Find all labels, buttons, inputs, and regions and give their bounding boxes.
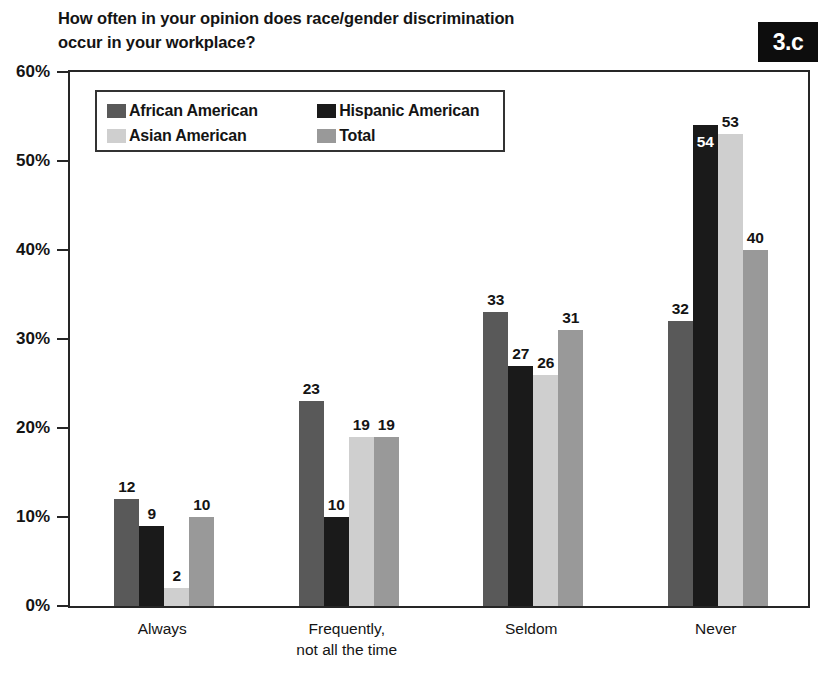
y-axis-tick-mark	[57, 338, 68, 340]
bar-group: 23101919	[255, 72, 440, 606]
bar-value-label: 19	[366, 416, 406, 434]
bar[interactable]	[164, 588, 189, 606]
y-axis-tick-label: 0%	[25, 596, 50, 616]
legend-swatch-icon	[317, 104, 336, 118]
bar[interactable]	[743, 250, 768, 606]
y-axis: 0%10%20%30%40%50%60%	[0, 0, 68, 684]
legend-item-total: Total	[317, 127, 503, 145]
bar-value-label: 40	[735, 229, 775, 247]
y-axis-tick-mark	[57, 605, 68, 607]
legend-item-asian-american: Asian American	[107, 127, 317, 145]
legend-swatch-icon	[107, 104, 126, 118]
x-axis-tick-label: Always	[62, 618, 262, 639]
bar[interactable]	[718, 134, 743, 606]
bar[interactable]	[189, 517, 214, 606]
chart-legend: African American Hispanic American Asian…	[95, 90, 505, 152]
legend-label: Total	[339, 127, 375, 145]
y-axis-tick-label: 10%	[16, 507, 50, 527]
legend-row: Asian American Total	[107, 123, 503, 148]
legend-row: African American Hispanic American	[107, 98, 503, 123]
legend-item-african-american: African American	[107, 102, 317, 120]
legend-label: African American	[129, 102, 258, 120]
bar-group: 129210	[70, 72, 255, 606]
y-axis-tick-mark	[57, 160, 68, 162]
bar-value-label: 10	[182, 496, 222, 514]
chart-header: How often in your opinion does race/gend…	[0, 0, 820, 70]
bar-value-label: 53	[710, 113, 750, 131]
figure-number-badge: 3.c	[758, 22, 818, 62]
y-axis-tick-label: 50%	[16, 151, 50, 171]
bar-value-label: 9	[132, 505, 172, 523]
x-axis-tick-label: Seldom	[431, 618, 631, 639]
y-axis-tick-label: 40%	[16, 240, 50, 260]
bar[interactable]	[508, 366, 533, 606]
y-axis-tick-mark	[57, 427, 68, 429]
bar-value-label: 31	[551, 309, 591, 327]
y-axis-tick-label: 30%	[16, 329, 50, 349]
y-axis-tick-label: 20%	[16, 418, 50, 438]
y-axis-tick-label: 60%	[16, 62, 50, 82]
legend-label: Hispanic American	[339, 102, 479, 120]
legend-item-hispanic-american: Hispanic American	[317, 102, 503, 120]
x-axis-tick-label: Never	[616, 618, 816, 639]
bar[interactable]	[324, 517, 349, 606]
y-axis-tick-mark	[57, 516, 68, 518]
bar-value-label: 23	[291, 380, 331, 398]
bar-value-label: 12	[107, 478, 147, 496]
bar[interactable]	[139, 526, 164, 606]
bar[interactable]	[349, 437, 374, 606]
bar[interactable]	[668, 321, 693, 606]
bar-value-label: 33	[476, 291, 516, 309]
x-axis-tick-label: Frequently, not all the time	[247, 618, 447, 660]
page-title: How often in your opinion does race/gend…	[58, 6, 658, 54]
bar[interactable]	[693, 125, 718, 606]
bar[interactable]	[374, 437, 399, 606]
bar[interactable]	[533, 375, 558, 606]
bars-layer: 129210231019193327263132545340	[70, 72, 808, 606]
legend-swatch-icon	[107, 129, 126, 143]
bar-group: 33272631	[439, 72, 624, 606]
bar[interactable]	[558, 330, 583, 606]
legend-label: Asian American	[129, 127, 247, 145]
y-axis-tick-mark	[57, 71, 68, 73]
legend-swatch-icon	[317, 129, 336, 143]
x-axis: AlwaysFrequently, not all the timeSeldom…	[70, 612, 808, 684]
y-axis-tick-mark	[57, 249, 68, 251]
bar-group: 32545340	[624, 72, 809, 606]
